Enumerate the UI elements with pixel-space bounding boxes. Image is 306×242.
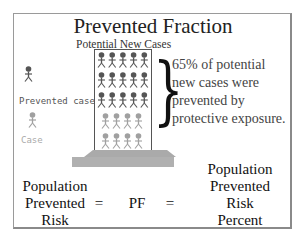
case-icon bbox=[28, 112, 37, 128]
annotation-text: 65% of potential new cases were prevente… bbox=[172, 56, 286, 128]
case-icon bbox=[124, 113, 131, 128]
diagram-title: Prevented Fraction bbox=[0, 14, 306, 39]
prevented-case-icon bbox=[98, 92, 105, 107]
case-icon bbox=[113, 113, 120, 128]
legend-case: Case bbox=[21, 135, 43, 145]
prevented-case-icon bbox=[24, 66, 33, 82]
legend-prevented-case: Prevented case bbox=[19, 96, 95, 106]
equals-sign-2: = bbox=[163, 195, 177, 212]
pf-label: PF bbox=[122, 195, 152, 212]
prevented-case-icon bbox=[130, 72, 137, 87]
prevented-case-icon bbox=[141, 52, 148, 67]
case-icon bbox=[102, 113, 109, 128]
prevented-case-icon bbox=[119, 52, 126, 67]
prevented-case-icon bbox=[130, 92, 137, 107]
equation-right: Population Prevented Risk Percent bbox=[200, 161, 280, 229]
prevented-case-icon bbox=[109, 52, 116, 67]
prevented-case-icon bbox=[119, 92, 126, 107]
prevented-case-icon bbox=[98, 72, 105, 87]
equals-sign-1: = bbox=[92, 195, 106, 212]
prevented-case-icon bbox=[109, 92, 116, 107]
prevented-case-icon bbox=[141, 92, 148, 107]
population-column bbox=[94, 49, 152, 152]
pedestal-base bbox=[72, 157, 174, 167]
case-icon bbox=[124, 133, 131, 148]
figure-grid bbox=[95, 50, 153, 153]
case-icon bbox=[113, 133, 120, 148]
prevented-case-icon bbox=[109, 72, 116, 87]
case-icon bbox=[102, 133, 109, 148]
prevented-case-icon bbox=[98, 52, 105, 67]
case-icon bbox=[135, 133, 142, 148]
equation-left: Population Prevented Risk bbox=[20, 178, 90, 229]
prevented-case-icon bbox=[141, 72, 148, 87]
case-icon bbox=[135, 113, 142, 128]
prevented-case-icon bbox=[119, 72, 126, 87]
pedestal-top bbox=[84, 150, 176, 157]
prevented-case-icon bbox=[130, 52, 137, 67]
